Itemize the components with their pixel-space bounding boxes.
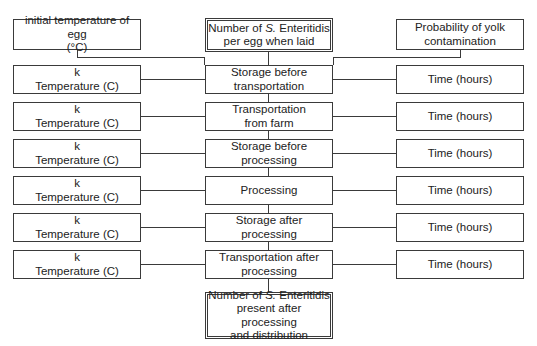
time-box: Time (hours) (396, 213, 524, 242)
initial-temperature-box: initial temperature of egg (°C) (13, 19, 141, 50)
output-number-box: Number of S. Enteritidis present after p… (205, 292, 333, 339)
connector (268, 205, 269, 213)
k-label: k (35, 214, 119, 228)
process-step-box: Processing (205, 176, 333, 205)
time-label: Time (hours) (428, 184, 493, 198)
connector (268, 94, 269, 102)
time-label: Time (hours) (428, 258, 493, 272)
yolk-probability-line1: Probability of yolk (415, 21, 505, 35)
kinetics-box: kTemperature (C) (13, 139, 141, 168)
connector (141, 116, 205, 117)
number-laid-line2: per egg when laid (208, 35, 329, 49)
step-label-line: Storage before (231, 140, 307, 154)
connector (333, 57, 461, 58)
connector (141, 227, 205, 228)
connector (141, 79, 205, 80)
time-label: Time (hours) (428, 73, 493, 87)
kinetics-box: kTemperature (C) (13, 250, 141, 279)
kinetics-box: kTemperature (C) (13, 102, 141, 131)
time-box: Time (hours) (396, 250, 524, 279)
k-label: k (35, 140, 119, 154)
connector (333, 116, 396, 117)
time-label: Time (hours) (428, 147, 493, 161)
process-step-box: Transportationfrom farm (205, 102, 333, 131)
step-label-line: processing (219, 265, 319, 279)
connector (204, 57, 205, 65)
step-label-line: from farm (232, 117, 306, 131)
k-label: k (35, 66, 119, 80)
temperature-label: Temperature (C) (35, 191, 119, 205)
k-label: k (35, 177, 119, 191)
temperature-label: Temperature (C) (35, 80, 119, 94)
connector (333, 264, 396, 265)
output-line3: and distribution (208, 329, 330, 343)
process-step-box: Storage afterprocessing (205, 213, 333, 242)
connector (268, 242, 269, 250)
connector (141, 153, 205, 154)
step-label-line: Processing (241, 184, 298, 198)
connector (460, 50, 461, 57)
process-step-box: Transportation afterprocessing (205, 250, 333, 279)
output-line1: Number of S. Enteritidis (208, 289, 330, 303)
process-step-box: Storage beforetransportation (205, 65, 333, 94)
step-label-line: processing (236, 228, 302, 242)
k-label: k (35, 103, 119, 117)
connector (268, 168, 269, 176)
time-box: Time (hours) (396, 65, 524, 94)
time-box: Time (hours) (396, 102, 524, 131)
time-label: Time (hours) (428, 110, 493, 124)
step-label-line: Transportation (232, 103, 306, 117)
temperature-label: Temperature (C) (35, 265, 119, 279)
process-step-box: Storage beforeprocessing (205, 139, 333, 168)
connector (333, 153, 396, 154)
k-label: k (35, 251, 119, 265)
number-laid-box: Number of S. Enteritidis per egg when la… (205, 18, 333, 52)
connector (141, 264, 205, 265)
connector (333, 79, 396, 80)
connector (333, 57, 334, 65)
connector (77, 57, 205, 58)
step-label-line: Storage after (236, 214, 302, 228)
kinetics-box: kTemperature (C) (13, 65, 141, 94)
time-box: Time (hours) (396, 176, 524, 205)
number-laid-line1: Number of S. Enteritidis (208, 22, 329, 36)
yolk-probability-box: Probability of yolk contamination (396, 19, 524, 50)
initial-temperature-line1: initial temperature of egg (14, 14, 140, 41)
step-label-line: Transportation after (219, 251, 319, 265)
temperature-label: Temperature (C) (35, 228, 119, 242)
yolk-probability-line2: contamination (415, 35, 505, 49)
connector (268, 131, 269, 139)
temperature-label: Temperature (C) (35, 154, 119, 168)
temperature-label: Temperature (C) (35, 117, 119, 131)
connector (333, 190, 396, 191)
kinetics-box: kTemperature (C) (13, 213, 141, 242)
kinetics-box: kTemperature (C) (13, 176, 141, 205)
time-label: Time (hours) (428, 221, 493, 235)
time-box: Time (hours) (396, 139, 524, 168)
connector (333, 227, 396, 228)
connector (141, 190, 205, 191)
step-label-line: processing (231, 154, 307, 168)
step-label-line: Storage before (231, 66, 307, 80)
step-label-line: transportation (231, 80, 307, 94)
connector (268, 52, 269, 65)
output-line2: present after processing (208, 302, 330, 329)
